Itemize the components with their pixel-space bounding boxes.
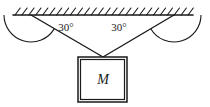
mass-label: M — [96, 72, 110, 87]
left-angle-label: 30° — [58, 21, 73, 33]
physics-diagram-canvas: 30° 30° M — [0, 0, 210, 107]
right-angle-label: 30° — [111, 21, 126, 33]
free-body-diagram: 30° 30° M — [0, 0, 210, 107]
